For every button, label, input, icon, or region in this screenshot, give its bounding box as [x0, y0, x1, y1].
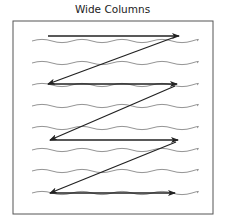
text-line-wave [32, 126, 199, 129]
text-line-wave [32, 39, 199, 42]
text-lines [32, 39, 199, 194]
arrow [48, 37, 175, 84]
text-line-wave [32, 104, 199, 107]
arrow [50, 86, 175, 140]
text-line-wave [32, 61, 199, 64]
text-line-wave [32, 169, 199, 172]
reading-path-diagram [0, 0, 225, 224]
page-frame [13, 21, 213, 214]
text-line-wave [32, 148, 199, 151]
